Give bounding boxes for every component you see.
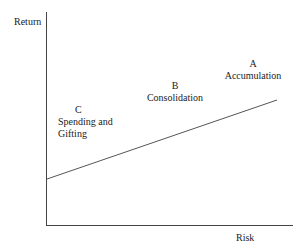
- phase-a-name: Accumulation: [218, 70, 288, 82]
- phase-c-name-line1: Spending and: [58, 116, 113, 128]
- phase-b-letter: B: [140, 80, 210, 92]
- phase-c-name-line2: Gifting: [58, 128, 113, 140]
- phase-a-letter: A: [218, 58, 288, 70]
- phase-a: A Accumulation: [218, 58, 288, 82]
- phase-c: C Spending and Gifting: [58, 104, 113, 140]
- phase-b: B Consolidation: [140, 80, 210, 104]
- x-axis-label: Risk: [236, 232, 254, 244]
- phase-c-letter: C: [58, 104, 113, 116]
- y-axis-label: Return: [14, 16, 41, 28]
- risk-return-plot: [0, 0, 302, 249]
- phase-b-name: Consolidation: [140, 92, 210, 104]
